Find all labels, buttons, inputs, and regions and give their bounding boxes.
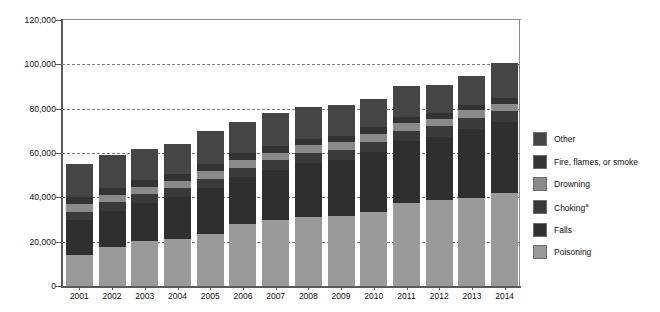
bar-2010[interactable]: [360, 99, 387, 286]
bar-segment-falls: [328, 160, 355, 215]
legend-item-falls[interactable]: Falls: [533, 218, 657, 241]
bar-segment-drowning: [360, 134, 387, 142]
x-axis-tick: [439, 286, 440, 290]
bar-segment-other: [99, 155, 126, 187]
bar-2005[interactable]: [197, 131, 224, 286]
bar-segment-fire-flames-or-smoke: [99, 188, 126, 195]
y-axis-tick-label: 100,000: [25, 59, 56, 69]
bar-2004[interactable]: [164, 144, 191, 286]
bar-segment-fire-flames-or-smoke: [491, 98, 518, 104]
bar-segment-other: [360, 99, 387, 127]
bar-segment-falls: [66, 220, 93, 254]
x-axis-line: [61, 286, 521, 288]
bar-segment-drowning: [262, 153, 289, 161]
bar-2001[interactable]: [66, 164, 93, 286]
bar-segment-other: [426, 85, 453, 113]
bar-segment-falls: [229, 177, 256, 224]
bar-segment-poisoning: [393, 203, 420, 286]
x-axis-tick: [407, 286, 408, 290]
legend-swatch-icon: [533, 223, 547, 237]
bar-segment-other: [393, 86, 420, 116]
legend-item-label: Other: [554, 134, 575, 144]
y-axis-tick: [55, 286, 62, 287]
bar-segment-choking: [197, 179, 224, 189]
bar-segment-drowning: [491, 104, 518, 112]
bar-segment-choking: [426, 126, 453, 137]
bar-segment-fire-flames-or-smoke: [229, 153, 256, 160]
bar-segment-poisoning: [66, 255, 93, 286]
y-axis-tick-label: 20,000: [29, 237, 56, 247]
x-axis-tick: [210, 286, 211, 290]
bar-segment-other: [131, 149, 158, 179]
legend-item-choking[interactable]: Chokinga: [533, 196, 657, 219]
y-axis-tick: [55, 20, 62, 21]
bar-2011[interactable]: [393, 86, 420, 286]
legend-item-drowning[interactable]: Drowning: [533, 173, 657, 196]
x-axis-tick: [243, 286, 244, 290]
bar-segment-other: [328, 105, 355, 136]
bar-segment-falls: [426, 137, 453, 200]
legend-item-label: Poisoning: [554, 247, 591, 257]
bar-segment-falls: [197, 188, 224, 233]
legend-item-label: Drowning: [554, 179, 590, 189]
legend-item-other[interactable]: Other: [533, 128, 657, 151]
bar-segment-falls: [458, 129, 485, 197]
x-axis-tick: [472, 286, 473, 290]
bar-segment-drowning: [164, 181, 191, 188]
x-axis-tick: [341, 286, 342, 290]
bar-2003[interactable]: [131, 149, 158, 286]
bar-segment-fire-flames-or-smoke: [295, 139, 322, 145]
bar-segment-fire-flames-or-smoke: [426, 113, 453, 119]
bar-segment-drowning: [295, 145, 322, 153]
x-axis-tick: [112, 286, 113, 290]
bar-segment-drowning: [99, 195, 126, 203]
bar-segment-choking: [458, 118, 485, 129]
bar-segment-other: [164, 144, 191, 174]
bar-segment-other: [66, 164, 93, 197]
legend-item-poisoning[interactable]: Poisoning: [533, 241, 657, 264]
legend-item-label: Fire, flames, or smoke: [554, 157, 638, 167]
bar-2012[interactable]: [426, 85, 453, 286]
bar-segment-choking: [229, 168, 256, 178]
y-axis-tick: [55, 242, 62, 243]
bar-segment-fire-flames-or-smoke: [458, 105, 485, 111]
bar-2007[interactable]: [262, 113, 289, 286]
bar-segment-falls: [164, 197, 191, 239]
y-axis-tick-label: 80,000: [29, 104, 56, 114]
bar-segment-other: [229, 122, 256, 153]
y-axis-tick: [55, 153, 62, 154]
legend-item-fire-flames-or-smoke[interactable]: Fire, flames, or smoke: [533, 151, 657, 174]
bar-segment-drowning: [229, 160, 256, 168]
y-axis-tick: [55, 64, 62, 65]
bar-2009[interactable]: [328, 105, 355, 286]
bar-segment-poisoning: [197, 234, 224, 286]
bar-segment-poisoning: [491, 193, 518, 286]
bar-segment-poisoning: [262, 220, 289, 286]
bar-segment-poisoning: [229, 224, 256, 286]
bar-segment-falls: [295, 163, 322, 217]
bar-segment-choking: [491, 111, 518, 122]
bar-segment-fire-flames-or-smoke: [131, 180, 158, 187]
bar-2008[interactable]: [295, 107, 322, 286]
legend-swatch-icon: [533, 155, 547, 169]
bar-segment-choking: [66, 212, 93, 221]
bar-segment-poisoning: [328, 216, 355, 286]
bar-2006[interactable]: [229, 122, 256, 286]
bar-segment-choking: [262, 160, 289, 170]
bar-segment-fire-flames-or-smoke: [328, 136, 355, 142]
footnote-marker: a: [585, 202, 588, 208]
bar-segment-choking: [164, 188, 191, 197]
bar-segment-falls: [393, 141, 420, 203]
bar-2013[interactable]: [458, 76, 485, 286]
x-axis-tick: [79, 286, 80, 290]
y-axis-tick: [55, 197, 62, 198]
y-axis-tick-label: 120,000: [25, 15, 56, 25]
x-axis-tick: [374, 286, 375, 290]
bar-2002[interactable]: [99, 155, 126, 286]
bar-segment-fire-flames-or-smoke: [164, 174, 191, 181]
bar-segment-poisoning: [131, 241, 158, 286]
bar-2014[interactable]: [491, 63, 518, 286]
plot-area: [62, 20, 520, 286]
x-axis-tick: [178, 286, 179, 290]
x-axis-tick: [505, 286, 506, 290]
